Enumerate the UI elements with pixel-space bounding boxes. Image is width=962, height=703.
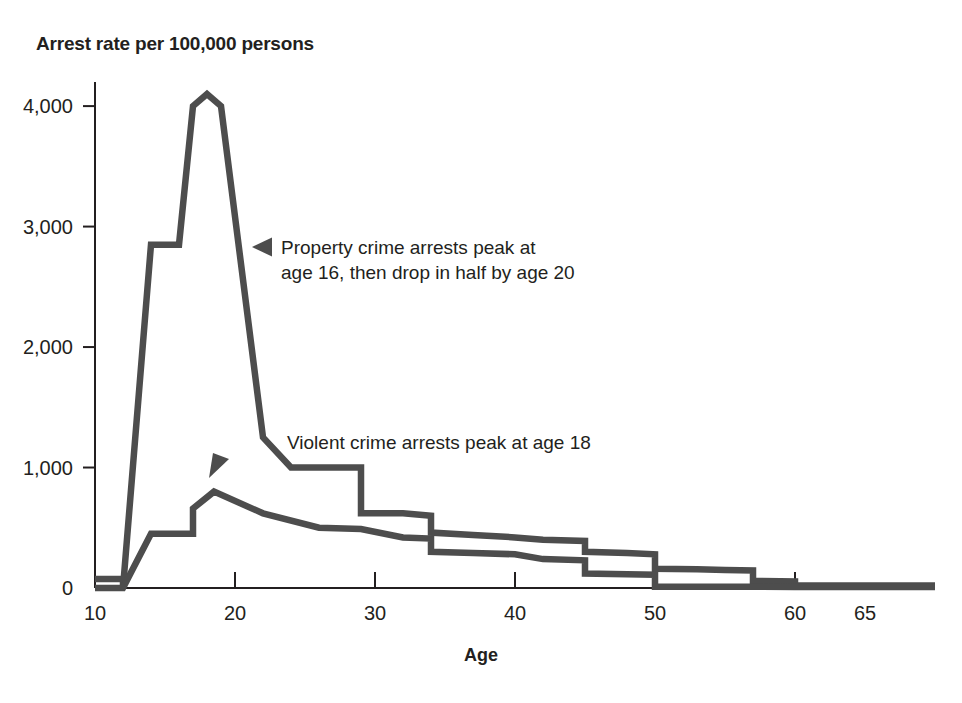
x-tick-label: 20	[224, 602, 246, 624]
x-axis-title: Age	[0, 645, 962, 666]
x-tick-label: 65	[854, 602, 876, 624]
x-tick-label: 60	[784, 602, 806, 624]
property-annotation: Property crime arrests peak atage 16, th…	[252, 237, 575, 283]
x-tick-label: 40	[504, 602, 526, 624]
y-tick-label: 1,000	[23, 457, 73, 479]
annotation-text-line: Property crime arrests peak at	[281, 237, 536, 258]
chart-plot-area: 01,0002,0003,0004,000 10203040506065 Pro…	[0, 0, 962, 703]
y-axis-ticks: 01,0002,0003,0004,000	[23, 95, 95, 599]
y-tick-label: 2,000	[23, 336, 73, 358]
x-tick-label: 50	[644, 602, 666, 624]
annotation-text-line: Violent crime arrests peak at age 18	[287, 432, 591, 453]
series-line-property-crime-arrests	[95, 94, 935, 588]
y-tick-label: 3,000	[23, 216, 73, 238]
y-tick-label: 0	[62, 577, 73, 599]
y-tick-label: 4,000	[23, 95, 73, 117]
annotation-text-line: age 16, then drop in half by age 20	[281, 262, 575, 283]
axis-lines	[95, 82, 935, 588]
left-triangle-icon	[252, 238, 272, 257]
x-tick-label: 30	[364, 602, 386, 624]
x-tick-label: 10	[84, 602, 106, 624]
right-triangle-icon	[209, 453, 229, 478]
data-series	[95, 94, 935, 588]
chart-figure: Arrest rate per 100,000 persons 01,0002,…	[0, 0, 962, 703]
